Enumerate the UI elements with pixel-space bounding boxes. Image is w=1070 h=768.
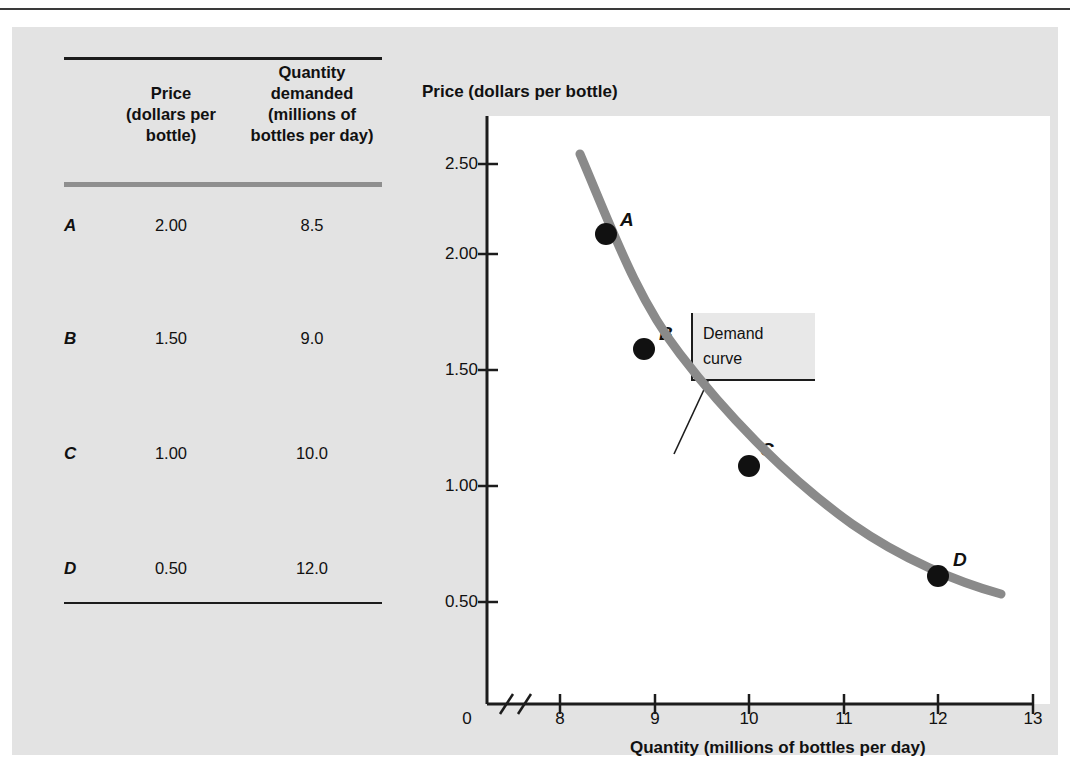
data-point-marker-a — [595, 223, 617, 245]
column-header-price-line2: (dollars per — [110, 104, 232, 125]
column-header-price-line3: bottle) — [110, 125, 232, 146]
demand-schedule-table: Price (dollars per bottle) Quantity dema… — [52, 39, 412, 609]
column-header-quantity-line2: demanded — [238, 83, 386, 104]
data-point-marker-d — [927, 565, 949, 587]
table-cell-quantity-a: 8.5 — [238, 216, 386, 235]
table-row-label-c: C — [64, 444, 94, 464]
column-header-price: Price (dollars per bottle) — [110, 83, 232, 146]
table-row-label-d: D — [64, 559, 94, 579]
table-cell-price-c: 1.00 — [110, 444, 232, 463]
demand-curve-chart: Price (dollars per bottle) Quantity (mil… — [412, 54, 1070, 768]
table-cell-quantity-d: 12.0 — [238, 559, 386, 578]
page-top-rule — [0, 8, 1070, 10]
chart-graphics — [412, 54, 1070, 768]
table-cell-quantity-b: 9.0 — [238, 329, 386, 348]
table-bottom-rule — [64, 602, 382, 604]
table-top-rule — [64, 57, 382, 60]
table-cell-price-d: 0.50 — [110, 559, 232, 578]
table-cell-price-a: 2.00 — [110, 216, 232, 235]
callout-leader-line — [674, 381, 708, 454]
table-cell-price-b: 1.50 — [110, 329, 232, 348]
column-header-quantity-line4: bottles per day) — [238, 125, 386, 146]
demand-curve-line — [580, 154, 1001, 594]
table-row-label-b: B — [64, 329, 94, 349]
figure-panel: Price (dollars per bottle) Quantity dema… — [12, 27, 1058, 755]
table-header-divider — [64, 182, 382, 187]
column-header-price-line1: Price — [110, 83, 232, 104]
data-point-marker-b — [633, 338, 655, 360]
table-cell-quantity-c: 10.0 — [238, 444, 386, 463]
column-header-quantity-line1: Quantity — [238, 62, 386, 83]
column-header-quantity-line3: (millions of — [238, 104, 386, 125]
column-header-quantity-demanded: Quantity demanded (millions of bottles p… — [238, 62, 386, 146]
data-point-marker-c — [738, 455, 760, 477]
table-row-label-a: A — [64, 216, 94, 236]
